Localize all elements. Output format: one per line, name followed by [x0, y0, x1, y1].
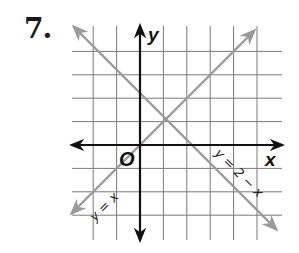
coordinate-graph: y x O y = x y = 2 − x [0, 0, 299, 253]
y-axis-label: y [147, 24, 160, 45]
origin-label: O [119, 148, 135, 170]
x-axis-label: x [264, 149, 277, 170]
